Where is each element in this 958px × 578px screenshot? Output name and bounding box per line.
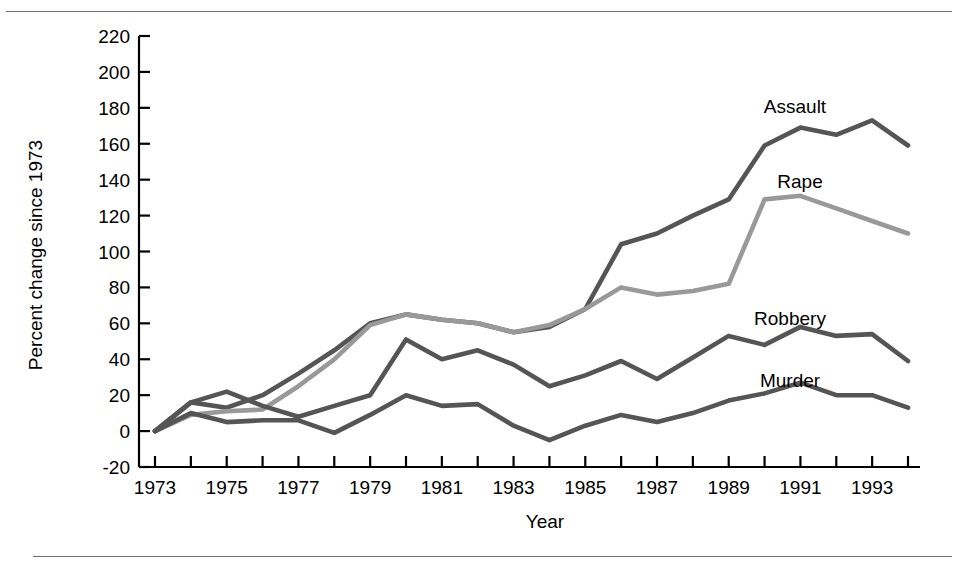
series-label-murder: Murder [760, 370, 821, 391]
series-label-assault: Assault [764, 96, 827, 117]
x-tick-label: 1977 [277, 477, 319, 498]
y-tick-label: 200 [98, 62, 130, 83]
x-tick-label: 1979 [349, 477, 391, 498]
x-tick-label: 1973 [134, 477, 176, 498]
series-lines [155, 120, 908, 440]
x-tick-label: 1975 [206, 477, 248, 498]
series-label-rape: Rape [777, 171, 822, 192]
y-axis: -20020406080100120140160180200220 [98, 26, 150, 478]
y-tick-label: 100 [98, 242, 130, 263]
y-axis-title: Percent change since 1973 [25, 140, 46, 370]
y-tick-label: 20 [109, 385, 130, 406]
x-tick-label: 1981 [421, 477, 463, 498]
x-tick-label: 1987 [636, 477, 678, 498]
line-chart-plot: -20020406080100120140160180200220 197319… [0, 0, 958, 578]
y-tick-label: 180 [98, 98, 130, 119]
y-tick-label: 80 [109, 277, 130, 298]
y-tick-label: 140 [98, 170, 130, 191]
x-axis: 1973197519771979198119831985198719891991… [134, 456, 920, 498]
x-tick-label: 1985 [564, 477, 606, 498]
y-tick-label: 160 [98, 134, 130, 155]
x-tick-label: 1989 [708, 477, 750, 498]
y-tick-label: 220 [98, 26, 130, 47]
y-tick-label: -20 [103, 457, 130, 478]
x-tick-label: 1991 [779, 477, 821, 498]
y-tick-label: 0 [119, 421, 130, 442]
x-axis-title: Year [526, 511, 565, 532]
chart-figure: -20020406080100120140160180200220 197319… [0, 0, 958, 578]
x-tick-label: 1983 [492, 477, 534, 498]
y-tick-label: 120 [98, 206, 130, 227]
y-tick-label: 40 [109, 349, 130, 370]
series-label-robbery: Robbery [754, 308, 826, 329]
x-tick-label: 1993 [851, 477, 893, 498]
y-tick-label: 60 [109, 313, 130, 334]
